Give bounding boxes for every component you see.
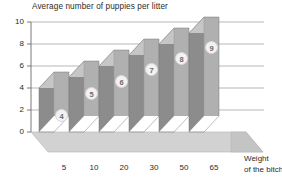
data-point-label: 6 — [115, 75, 128, 88]
y-tick-label: 2 — [2, 106, 24, 114]
x-tick-label: 65 — [201, 164, 227, 172]
floor-right-edge — [231, 132, 263, 152]
chart-container: Average number of puppies per litter — [0, 0, 282, 189]
y-tick-label: 6 — [2, 62, 24, 70]
x-axis-title-line2: of the bitch — [244, 165, 282, 176]
y-tick-label: 4 — [2, 84, 24, 92]
x-tick-label: 10 — [81, 164, 107, 172]
x-tick-label: 30 — [141, 164, 167, 172]
data-point-label: 4 — [55, 109, 68, 122]
x-axis-title-line1: Weight — [244, 154, 282, 165]
bar-series-item — [189, 17, 219, 132]
x-tick-label: 20 — [111, 164, 137, 172]
y-tick-label: 8 — [2, 40, 24, 48]
depth-gridline-stubs — [248, 22, 264, 110]
y-tick-label: 0 — [2, 128, 24, 136]
data-point-label: 5 — [85, 87, 98, 100]
x-tick-label: 5 — [51, 164, 77, 172]
y-tick-label: 10 — [2, 18, 24, 26]
bar-series-item — [99, 50, 129, 132]
y-axis-ticks — [27, 22, 31, 132]
data-point-label: 8 — [175, 52, 188, 65]
chart-floor — [31, 132, 263, 152]
data-point-label: 7 — [145, 63, 158, 76]
chart-canvas — [0, 0, 282, 189]
x-axis-title: Weight of the bitch — [244, 154, 282, 175]
bar-series-item — [159, 28, 189, 132]
plot-area: 10 8 6 4 2 0 5 10 20 30 50 65 Weight of … — [0, 0, 282, 189]
bar-series-item — [129, 39, 159, 132]
x-tick-label: 50 — [171, 164, 197, 172]
bar-series-item — [39, 72, 69, 132]
data-point-label: 9 — [205, 41, 218, 54]
